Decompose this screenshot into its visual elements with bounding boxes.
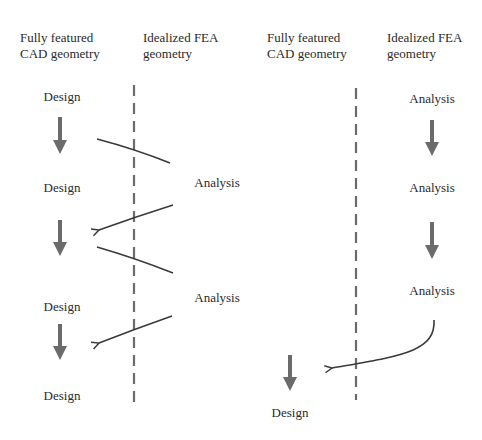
design-analysis-workflow-diagram: Fully featured CAD geometry Idealized FE… [0, 0, 482, 440]
right-header-cad-geometry: Fully featured CAD geometry [267, 30, 347, 62]
right-header-fea-line-1: Idealized FEA [387, 30, 462, 46]
left-thick-arrow-3 [53, 324, 67, 360]
right-analysis-node-3: Analysis [409, 283, 455, 299]
left-header-fea-line-2: geometry [143, 46, 218, 62]
left-header-cad-line-2: CAD geometry [20, 46, 100, 62]
left-design-node-4: Design [44, 388, 81, 404]
left-return-arrow-2 [99, 316, 172, 343]
right-header-fea-geometry: Idealized FEA geometry [387, 30, 462, 62]
left-design-node-2: Design [44, 180, 81, 196]
right-header-cad-line-2: CAD geometry [267, 46, 347, 62]
right-thick-arrow-2 [425, 222, 439, 259]
left-return-arrow-1 [99, 205, 173, 230]
left-header-fea-line-1: Idealized FEA [143, 30, 218, 46]
left-header-cad-line-1: Fully featured [20, 30, 100, 46]
left-header-fea-geometry: Idealized FEA geometry [143, 30, 218, 62]
left-thick-arrow-2 [53, 220, 67, 256]
left-thick-arrow-1 [53, 117, 67, 154]
left-design-node-3: Design [44, 299, 81, 315]
right-header-fea-line-2: geometry [387, 46, 462, 62]
left-design-node-1: Design [44, 89, 81, 105]
right-thick-arrow-3 [283, 355, 297, 391]
left-analysis-node-1: Analysis [194, 175, 240, 191]
right-thick-arrow-1 [425, 120, 439, 156]
diagram-graphics [0, 0, 482, 440]
right-header-cad-line-1: Fully featured [267, 30, 347, 46]
right-analysis-node-1: Analysis [409, 91, 455, 107]
left-analysis-node-2: Analysis [194, 290, 240, 306]
right-design-node-1: Design [272, 405, 309, 421]
left-header-cad-geometry: Fully featured CAD geometry [20, 30, 100, 62]
right-analysis-node-2: Analysis [409, 180, 455, 196]
right-return-curve-arrow [332, 320, 434, 368]
